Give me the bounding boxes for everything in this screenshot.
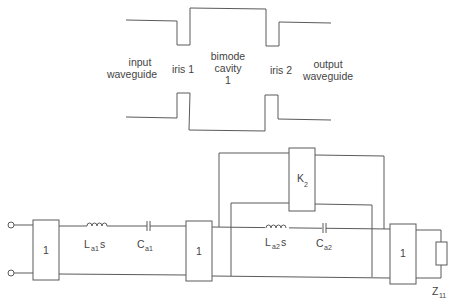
cavity-label-3: 1 [225,74,231,86]
load-wire-bottom [416,265,441,278]
svg-text:2: 2 [304,181,308,188]
svg-text:a2: a2 [272,243,280,250]
svg-text:a2: a2 [324,244,332,251]
wire [212,276,390,278]
waveguide-labels: input waveguide iris 1 bimode cavity 1 i… [106,50,353,86]
capacitor-ca1-label: C a1 [137,238,153,252]
bimode-filter-diagram: input waveguide iris 1 bimode cavity 1 i… [0,0,458,299]
output-waveguide-label: output [313,58,342,70]
input-port-terminal-top [8,222,14,228]
inverter-3-label: 1 [400,247,406,259]
inverter-1-label: 1 [43,244,49,256]
wire [212,227,390,229]
waveguide-bottom-outline [126,93,331,131]
svg-text:C: C [137,238,145,250]
svg-text:s: s [100,238,105,250]
equivalent-circuit: 1 L a1 s C a1 1 K [8,148,447,299]
cavity-label-2: cavity [215,62,243,74]
svg-text:a1: a1 [91,245,99,252]
outer-coupling-rail-right [315,155,384,229]
cavity-label: bimode [211,50,246,62]
wire [59,274,186,275]
load-wire-top [416,230,441,242]
svg-text:L: L [265,236,271,248]
input-waveguide-label: input [129,56,152,68]
iris1-label: iris 1 [172,63,194,75]
inverter-2-label: 1 [196,245,202,257]
input-port-terminal-bottom [8,270,14,276]
waveguide-top-outline [126,8,331,46]
svg-text:a1: a1 [145,245,153,252]
outer-coupling-rail [219,153,289,227]
inductor-la2-label: L a2 s [265,236,286,250]
svg-text:C: C [316,237,324,249]
svg-text:Z: Z [432,285,439,297]
svg-text:11: 11 [439,292,446,299]
iris2-label: iris 2 [270,64,292,76]
load-z11-label: Z 11 [432,285,446,299]
svg-text:s: s [281,236,286,248]
output-waveguide-label-2: waveguide [302,70,353,82]
capacitor-ca2-label: C a2 [316,237,332,251]
load-resistor-icon [436,242,447,265]
input-waveguide-label-2: waveguide [106,68,157,80]
svg-text:L: L [84,238,90,250]
inductor-la1-label: L a1 s [84,238,105,252]
svg-text:K: K [297,172,304,184]
inductor-la1-icon [87,223,107,226]
